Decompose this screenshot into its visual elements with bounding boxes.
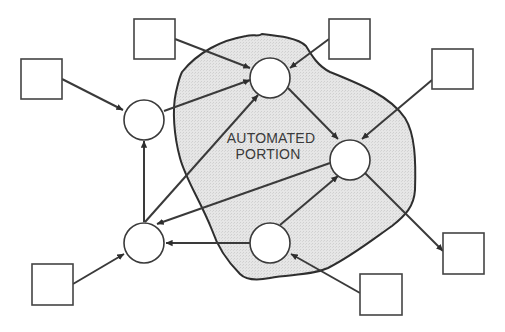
external-box-s4 xyxy=(432,49,473,89)
external-box-s7 xyxy=(32,264,73,305)
process-node-c2 xyxy=(250,58,290,98)
external-box-s2 xyxy=(134,19,175,59)
external-box-s6 xyxy=(360,274,402,315)
automation-boundary-diagram: AUTOMATED PORTION xyxy=(0,0,505,332)
region-label-line2: PORTION xyxy=(236,146,301,162)
external-box-s3 xyxy=(329,19,370,59)
external-box-s5 xyxy=(443,233,484,274)
process-node-c4 xyxy=(124,223,164,263)
process-node-c1 xyxy=(124,100,164,140)
process-node-c5 xyxy=(250,223,290,263)
flow-s7-to-c4 xyxy=(73,254,124,284)
process-node-c3 xyxy=(330,140,370,180)
flow-s1-to-c1 xyxy=(62,79,123,110)
external-box-s1 xyxy=(21,59,62,99)
region-label-line1: AUTOMATED xyxy=(227,130,315,146)
